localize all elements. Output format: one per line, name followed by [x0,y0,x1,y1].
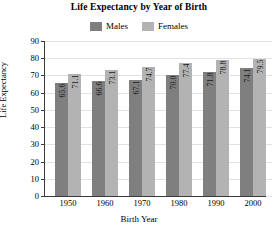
y-tick-label: 50 [31,105,40,115]
y-tick-label: 20 [31,157,40,167]
y-tick-label: 40 [31,122,40,132]
y-axis-title: Life Expectancy [0,62,8,118]
legend-label-females: Females [158,21,188,31]
bar-group: 65.671.1 [50,41,86,196]
bar-females-1980: 77.4 [179,63,192,196]
x-tick-label: 1980 [159,198,199,208]
bar-value-label: 70.0 [168,76,177,90]
legend-label-males: Males [106,21,128,31]
bar-value-label: 71.8 [205,73,214,87]
bar-females-1950: 71.1 [68,74,81,196]
x-axis-line [44,196,266,197]
x-tick-label: 2000 [233,198,273,208]
bar-value-label: 78.8 [218,61,227,75]
bar-group: 67.174.7 [124,41,160,196]
y-tick-mark [41,58,44,59]
chart-title: Life Expectancy by Year of Birth [0,2,278,12]
bar-value-label: 65.6 [57,84,66,98]
y-tick-mark [41,127,44,128]
bar-females-1970: 74.7 [142,67,155,196]
x-tick-label: 1950 [48,198,88,208]
legend-item-males: Males [90,21,128,31]
bar-females-1990: 78.8 [216,60,229,196]
legend-swatch-females [142,22,154,31]
bar-value-label: 77.4 [181,63,190,77]
bar-males-1990: 71.8 [203,72,216,196]
bar-group: 70.077.4 [161,41,197,196]
bar-males-1970: 67.1 [129,80,142,196]
x-tick-label: 1960 [85,198,125,208]
y-tick-mark [41,75,44,76]
bar-females-2000: 79.5 [253,59,266,196]
y-tick-label: 10 [31,174,40,184]
y-tick-label: 0 [35,191,39,201]
y-tick-mark [41,41,44,42]
x-axis-title: Birth Year [0,214,278,224]
y-tick-label: 80 [31,53,40,63]
bar-females-1960: 73.1 [105,70,118,196]
y-tick-mark [41,110,44,111]
y-tick-mark [41,144,44,145]
y-tick-label: 60 [31,88,40,98]
bar-value-label: 74.7 [144,68,153,82]
y-tick-mark [41,196,44,197]
plot-area: 65.671.166.673.167.174.770.077.471.878.8… [44,41,272,196]
chart-legend: Males Females [0,21,278,31]
bar-value-label: 73.1 [107,71,116,85]
bar-group: 66.673.1 [87,41,123,196]
bar-males-1950: 65.6 [55,83,68,196]
bar-males-2000: 74.1 [240,68,253,196]
y-tick-mark [41,179,44,180]
bar-group: 71.878.8 [198,41,234,196]
bar-value-label: 67.1 [131,81,140,95]
bar-males-1960: 66.6 [92,81,105,196]
legend-swatch-males [90,22,102,31]
y-tick-label: 30 [31,139,40,149]
bar-males-1980: 70.0 [166,75,179,196]
bar-value-label: 74.1 [242,69,251,83]
y-tick-mark [41,162,44,163]
y-tick-label: 90 [31,36,40,46]
chart-container: Life Expectancy by Year of Birth Males F… [0,0,278,232]
legend-item-females: Females [142,21,188,31]
bar-value-label: 66.6 [94,82,103,96]
x-tick-label: 1970 [122,198,162,208]
bar-value-label: 79.5 [255,60,264,74]
y-tick-mark [41,93,44,94]
bar-groups: 65.671.166.673.167.174.770.077.471.878.8… [44,41,272,196]
x-tick-label: 1990 [196,198,236,208]
bar-value-label: 71.1 [70,74,79,88]
y-tick-label: 70 [31,70,40,80]
bar-group: 74.179.5 [235,41,271,196]
